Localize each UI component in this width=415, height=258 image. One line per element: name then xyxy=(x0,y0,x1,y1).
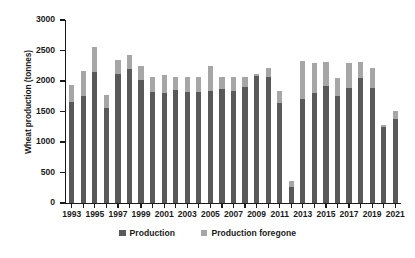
bar-2000[interactable] xyxy=(150,20,155,203)
bar-segment-production-2009[interactable] xyxy=(254,76,259,203)
bar-segment-production-2011[interactable] xyxy=(277,103,282,203)
bar-segment-production-2010[interactable] xyxy=(266,77,271,203)
x-axis-label-2007: 2007 xyxy=(224,209,243,219)
y-axis-tick-1500 xyxy=(60,111,65,112)
bar-2010[interactable] xyxy=(266,20,271,203)
bar-segment-production-1993[interactable] xyxy=(69,102,74,203)
y-axis-label-500: 500 xyxy=(23,167,55,177)
bar-1993[interactable] xyxy=(69,20,74,203)
x-axis-tick-2011 xyxy=(279,204,280,208)
bar-segment-foregone-2011[interactable] xyxy=(277,91,282,103)
bar-segment-foregone-2015[interactable] xyxy=(323,62,328,86)
bar-2014[interactable] xyxy=(312,20,317,203)
x-axis-tick-2008 xyxy=(244,204,245,208)
bar-segment-foregone-2000[interactable] xyxy=(150,77,155,92)
bar-segment-production-2019[interactable] xyxy=(370,88,375,203)
bar-1994[interactable] xyxy=(81,20,86,203)
bar-segment-foregone-2004[interactable] xyxy=(196,77,201,92)
y-axis-tick-2500 xyxy=(60,50,65,51)
bar-segment-production-1995[interactable] xyxy=(92,72,97,203)
bar-2005[interactable] xyxy=(208,20,213,203)
bar-2011[interactable] xyxy=(277,20,282,203)
bar-segment-foregone-2018[interactable] xyxy=(358,62,363,78)
bar-segment-production-1996[interactable] xyxy=(104,108,109,203)
bar-segment-production-2015[interactable] xyxy=(323,86,328,203)
bar-segment-foregone-2007[interactable] xyxy=(231,77,236,90)
bar-1995[interactable] xyxy=(92,20,97,203)
bar-segment-foregone-2006[interactable] xyxy=(219,77,224,89)
bar-segment-production-2014[interactable] xyxy=(312,93,317,203)
bar-segment-production-2016[interactable] xyxy=(335,96,340,203)
bar-segment-production-2013[interactable] xyxy=(300,99,305,203)
bar-2016[interactable] xyxy=(335,20,340,203)
bar-1996[interactable] xyxy=(104,20,109,203)
bar-segment-production-2007[interactable] xyxy=(231,91,236,203)
bar-segment-foregone-1993[interactable] xyxy=(69,85,74,102)
bar-segment-production-2021[interactable] xyxy=(393,119,398,203)
bar-segment-foregone-2012[interactable] xyxy=(289,181,294,186)
bar-segment-production-2008[interactable] xyxy=(242,87,247,203)
bar-1999[interactable] xyxy=(138,20,143,203)
bar-segment-production-1998[interactable] xyxy=(127,69,132,203)
y-axis-label-2500: 2500 xyxy=(23,45,55,55)
bar-segment-production-2004[interactable] xyxy=(196,92,201,203)
bar-segment-foregone-1997[interactable] xyxy=(115,60,120,74)
bar-segment-foregone-2009[interactable] xyxy=(254,74,259,76)
bar-segment-foregone-1995[interactable] xyxy=(92,47,97,72)
bar-2007[interactable] xyxy=(231,20,236,203)
bar-segment-production-1999[interactable] xyxy=(138,80,143,203)
bar-2018[interactable] xyxy=(358,20,363,203)
bar-segment-foregone-2008[interactable] xyxy=(242,77,247,87)
bar-segment-foregone-2003[interactable] xyxy=(185,77,190,92)
bar-segment-production-1997[interactable] xyxy=(115,74,120,203)
bar-2006[interactable] xyxy=(219,20,224,203)
bar-2012[interactable] xyxy=(289,20,294,203)
bar-2015[interactable] xyxy=(323,20,328,203)
bar-segment-production-1994[interactable] xyxy=(81,96,86,203)
bar-segment-foregone-2010[interactable] xyxy=(266,68,271,77)
bar-segment-foregone-2005[interactable] xyxy=(208,66,213,91)
bar-segment-foregone-1994[interactable] xyxy=(81,71,86,95)
bar-1997[interactable] xyxy=(115,20,120,203)
y-axis-label-2000: 2000 xyxy=(23,75,55,85)
bar-segment-foregone-1996[interactable] xyxy=(104,95,109,108)
bar-2020[interactable] xyxy=(381,20,386,203)
x-axis-label-2015: 2015 xyxy=(316,209,335,219)
bar-segment-foregone-2017[interactable] xyxy=(346,63,351,89)
bar-segment-foregone-2019[interactable] xyxy=(370,68,375,89)
bar-2002[interactable] xyxy=(173,20,178,203)
bar-segment-production-2005[interactable] xyxy=(208,91,213,203)
bar-segment-foregone-1999[interactable] xyxy=(138,66,143,79)
bar-2008[interactable] xyxy=(242,20,247,203)
legend-item-1[interactable]: Production xyxy=(119,228,175,238)
bar-segment-foregone-2014[interactable] xyxy=(312,63,317,94)
x-axis-tick-2020 xyxy=(383,204,384,208)
x-axis-tick-2007 xyxy=(233,204,234,208)
bar-2013[interactable] xyxy=(300,20,305,203)
bar-segment-production-2020[interactable] xyxy=(381,127,386,203)
bar-segment-production-2001[interactable] xyxy=(162,93,167,203)
bar-2001[interactable] xyxy=(162,20,167,203)
bar-2004[interactable] xyxy=(196,20,201,203)
bar-segment-production-2000[interactable] xyxy=(150,92,155,203)
bar-segment-foregone-2002[interactable] xyxy=(173,77,178,90)
bar-segment-production-2017[interactable] xyxy=(346,88,351,203)
bar-segment-production-2003[interactable] xyxy=(185,92,190,203)
bar-segment-production-2006[interactable] xyxy=(219,89,224,203)
bar-segment-production-2018[interactable] xyxy=(358,78,363,203)
bar-2019[interactable] xyxy=(370,20,375,203)
bar-segment-foregone-2016[interactable] xyxy=(335,78,340,96)
legend-item-2[interactable]: Production foregone xyxy=(201,228,296,238)
bar-segment-foregone-2013[interactable] xyxy=(300,61,305,99)
bar-segment-production-2012[interactable] xyxy=(289,187,294,203)
bar-segment-foregone-2021[interactable] xyxy=(393,111,398,119)
bar-segment-production-2002[interactable] xyxy=(173,90,178,203)
bar-2017[interactable] xyxy=(346,20,351,203)
bar-segment-foregone-1998[interactable] xyxy=(127,55,132,69)
bar-1998[interactable] xyxy=(127,20,132,203)
bar-2003[interactable] xyxy=(185,20,190,203)
bar-2009[interactable] xyxy=(254,20,259,203)
bar-segment-foregone-2020[interactable] xyxy=(381,125,386,127)
bar-2021[interactable] xyxy=(393,20,398,203)
bar-segment-foregone-2001[interactable] xyxy=(162,75,167,93)
